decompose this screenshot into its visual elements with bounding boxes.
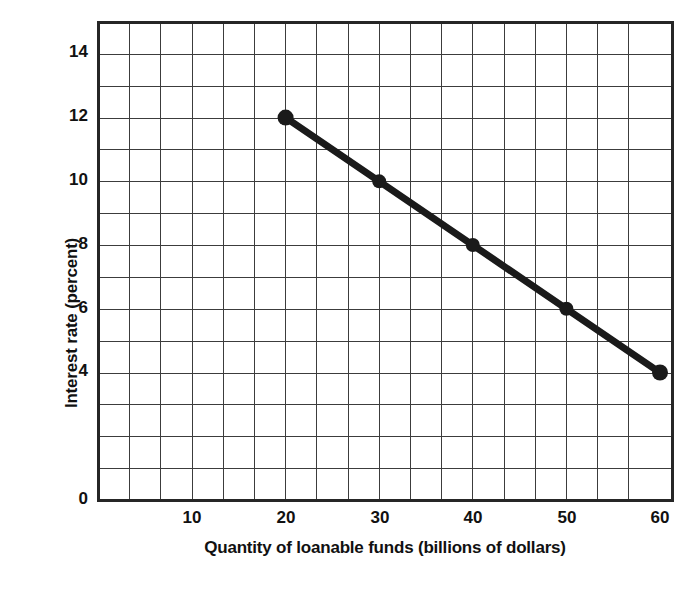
data-point-marker (466, 238, 480, 252)
data-point-marker (559, 302, 573, 316)
gridlines (98, 22, 672, 500)
axis-frame (99, 23, 673, 501)
data-point-marker (372, 174, 386, 188)
x-axis-title: Quantity of loanable funds (billions of … (98, 538, 672, 558)
plot-area (0, 0, 696, 590)
data-point-marker (278, 110, 294, 126)
data-point-marker (652, 365, 668, 381)
chart-figure: Interest rate (percent) 14 12 10 8 6 4 0… (0, 0, 696, 590)
